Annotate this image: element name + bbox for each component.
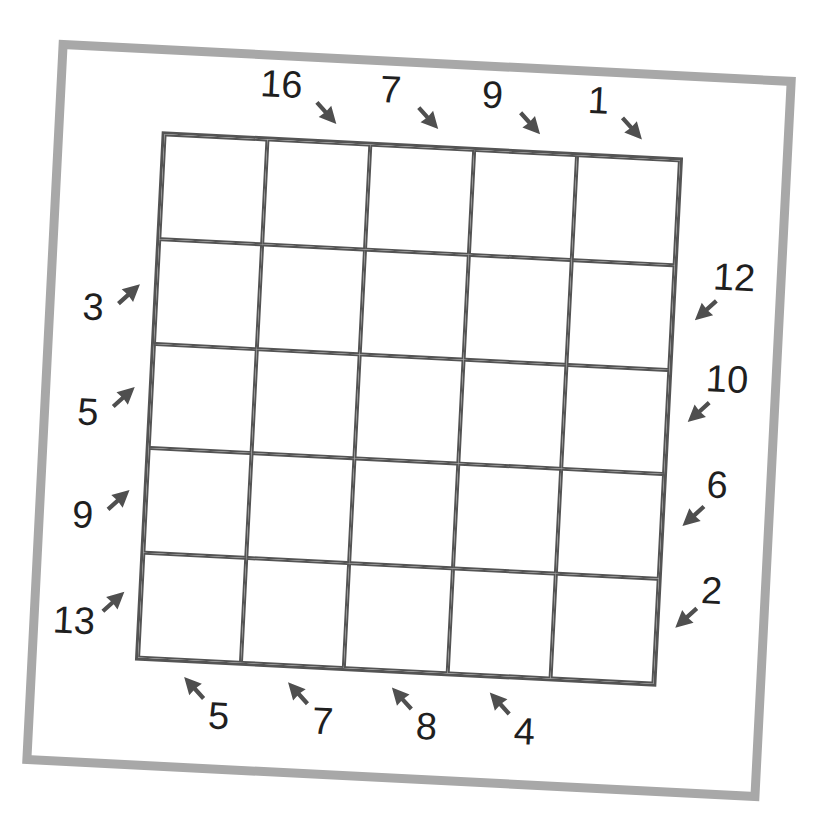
grid-cell-r2c4[interactable] bbox=[463, 255, 571, 365]
arrow-up-left-icon bbox=[283, 678, 314, 709]
grid-cell-r3c2[interactable] bbox=[252, 349, 360, 459]
top-clue-1: 16 bbox=[259, 64, 303, 104]
grid-cell-r5c3[interactable] bbox=[344, 563, 452, 673]
arrow-up-left-icon bbox=[484, 688, 515, 719]
arrow-down-right-icon bbox=[310, 97, 341, 128]
arrow-up-right-icon bbox=[107, 382, 138, 413]
arrow-down-right-icon bbox=[412, 102, 443, 133]
grid-cell-r5c2[interactable] bbox=[241, 558, 349, 668]
grid-cell-r4c1[interactable] bbox=[143, 448, 251, 558]
arrow-down-left-icon bbox=[671, 602, 702, 633]
arrow-down-left-icon bbox=[678, 500, 709, 531]
arrow-down-right-icon bbox=[616, 112, 647, 143]
grid-cell-r5c5[interactable] bbox=[550, 574, 658, 684]
grid-cell-r3c3[interactable] bbox=[355, 354, 463, 464]
arrow-up-right-icon bbox=[102, 485, 133, 516]
left-clue-2: 5 bbox=[77, 392, 100, 431]
arrow-up-right-icon bbox=[97, 587, 128, 618]
arrow-down-right-icon bbox=[514, 107, 545, 138]
top-clue-3: 9 bbox=[481, 75, 504, 114]
arrow-up-left-icon bbox=[179, 673, 210, 704]
grid-cell-r2c3[interactable] bbox=[360, 249, 468, 359]
top-clue-4: 1 bbox=[587, 81, 610, 120]
puzzle-page: 16 7 9 1 3 5 9 13 12 bbox=[0, 0, 817, 820]
grid-cell-r3c4[interactable] bbox=[458, 359, 566, 469]
left-clue-3: 9 bbox=[71, 495, 94, 534]
grid-cell-r4c4[interactable] bbox=[453, 464, 561, 574]
bottom-clue-4: 4 bbox=[513, 712, 536, 751]
grid-cell-r1c1[interactable] bbox=[159, 134, 267, 244]
right-clue-4: 2 bbox=[700, 571, 723, 610]
bottom-clue-3: 8 bbox=[415, 707, 438, 746]
right-clue-2: 10 bbox=[705, 359, 749, 399]
puzzle-board: 16 7 9 1 3 5 9 13 12 bbox=[135, 131, 683, 687]
grid-cell-r1c3[interactable] bbox=[365, 145, 473, 255]
arrow-down-left-icon bbox=[683, 396, 714, 427]
grid-cell-r1c2[interactable] bbox=[262, 140, 370, 250]
grid-cell-r4c3[interactable] bbox=[350, 459, 458, 569]
arrow-down-left-icon bbox=[691, 294, 722, 325]
grid-cell-r2c2[interactable] bbox=[257, 244, 365, 354]
grid-cell-r5c1[interactable] bbox=[138, 553, 246, 663]
left-clue-1: 3 bbox=[82, 287, 105, 326]
grid-cell-r4c2[interactable] bbox=[246, 453, 354, 563]
bottom-clue-1: 5 bbox=[207, 696, 230, 735]
grid-cell-r2c5[interactable] bbox=[566, 260, 674, 370]
arrow-up-left-icon bbox=[387, 683, 418, 714]
arrow-up-right-icon bbox=[113, 279, 144, 310]
grid-cell-r5c4[interactable] bbox=[447, 569, 555, 679]
grid-cell-r3c5[interactable] bbox=[561, 364, 669, 474]
left-clue-4: 13 bbox=[52, 600, 96, 640]
bottom-clue-2: 7 bbox=[311, 702, 334, 741]
grid-cell-r3c1[interactable] bbox=[149, 344, 257, 454]
grid-cell-r2c1[interactable] bbox=[154, 239, 262, 349]
grid-cell-r1c5[interactable] bbox=[572, 155, 680, 265]
right-clue-1: 12 bbox=[712, 257, 756, 297]
grid-cell-r4c5[interactable] bbox=[556, 469, 664, 579]
right-clue-3: 6 bbox=[706, 465, 729, 504]
puzzle-grid bbox=[135, 131, 683, 687]
top-clue-2: 7 bbox=[379, 70, 402, 109]
grid-cell-r1c4[interactable] bbox=[468, 150, 576, 260]
